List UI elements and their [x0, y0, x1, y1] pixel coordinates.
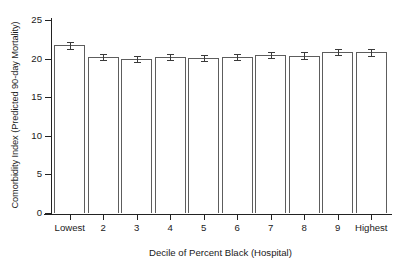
x-tick-label-4: 4 [154, 222, 188, 233]
error-cap-lower-8 [301, 59, 308, 60]
x-tick-label-2: 2 [87, 222, 121, 233]
bar-7 [255, 55, 286, 213]
error-cap-upper-lowest [67, 42, 74, 43]
bar-8 [289, 56, 320, 213]
x-tick-8 [304, 215, 305, 220]
y-tick-label-10: 10 [20, 131, 42, 140]
error-cap-upper-3 [134, 56, 141, 57]
x-tick-label-8: 8 [288, 222, 322, 233]
x-axis-line [44, 214, 392, 215]
error-cap-upper-9 [335, 49, 342, 50]
y-tick-label-25: 25 [20, 15, 42, 24]
x-tick-label-6: 6 [221, 222, 255, 233]
x-tick-label-9: 9 [321, 222, 355, 233]
y-tick-25 [45, 20, 52, 21]
plot-area [53, 20, 388, 213]
x-tick-9 [338, 215, 339, 220]
bar-3 [121, 59, 152, 213]
x-tick-2 [103, 215, 104, 220]
bar-6 [222, 57, 253, 213]
error-cap-upper-highest [368, 49, 375, 50]
x-tick-3 [137, 215, 138, 220]
bar-5 [188, 58, 219, 213]
y-tick-10 [45, 136, 52, 137]
error-cap-lower-4 [167, 60, 174, 61]
x-tick-label-lowest: Lowest [53, 222, 87, 233]
y-tick-label-15: 15 [20, 92, 42, 101]
error-cap-lower-7 [268, 58, 275, 59]
y-tick-15 [45, 97, 52, 98]
y-tick-5 [45, 174, 52, 175]
error-cap-upper-4 [167, 54, 174, 55]
bar-lowest [54, 45, 85, 213]
bar-highest [356, 52, 387, 213]
x-tick-4 [170, 215, 171, 220]
x-tick-label-3: 3 [120, 222, 154, 233]
y-tick-label-20: 20 [20, 54, 42, 63]
bar-9 [322, 52, 353, 213]
y-tick-0 [45, 213, 52, 214]
x-tick-highest [371, 215, 372, 220]
error-cap-lower-2 [100, 60, 107, 61]
y-axis-line [51, 18, 52, 215]
x-tick-label-5: 5 [187, 222, 221, 233]
x-tick-5 [204, 215, 205, 220]
error-bar-lowest [70, 42, 71, 50]
error-cap-lower-lowest [67, 49, 74, 50]
error-cap-upper-6 [234, 54, 241, 55]
chart-figure: Comorbidity Index (Predicted 90-day Mort… [0, 0, 400, 269]
x-axis-title: Decile of Percent Black (Hospital) [48, 247, 393, 258]
x-tick-6 [237, 215, 238, 220]
error-cap-lower-3 [134, 62, 141, 63]
x-tick-7 [271, 215, 272, 220]
y-tick-20 [45, 59, 52, 60]
bar-4 [155, 57, 186, 213]
error-cap-upper-2 [100, 54, 107, 55]
x-tick-label-highest: Highest [355, 222, 389, 233]
error-cap-upper-7 [268, 52, 275, 53]
error-cap-lower-6 [234, 60, 241, 61]
x-tick-label-7: 7 [254, 222, 288, 233]
error-cap-upper-8 [301, 52, 308, 53]
error-cap-lower-9 [335, 55, 342, 56]
y-axis-title: Comorbidity Index (Predicted 90-day Mort… [10, 8, 20, 223]
error-cap-lower-highest [368, 56, 375, 57]
error-cap-upper-5 [201, 55, 208, 56]
y-tick-label-0: 0 [20, 208, 42, 217]
y-tick-label-5: 5 [20, 169, 42, 178]
x-tick-lowest [70, 215, 71, 220]
bar-2 [88, 57, 119, 213]
error-cap-lower-5 [201, 61, 208, 62]
